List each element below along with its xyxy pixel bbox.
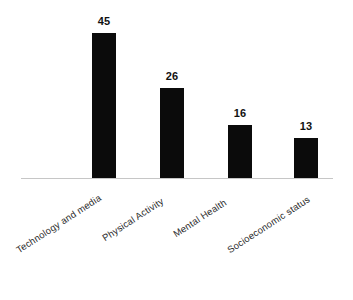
plot-area: 45 26 16 13: [0, 0, 353, 182]
x-tick-label-technology-and-media: Technology and media: [14, 192, 103, 255]
x-tick-label-socioeconomic-status: Socioeconomic status: [225, 193, 312, 255]
bar-value-socioeconomic-status: 13: [294, 120, 318, 132]
bar-technology-and-media: [92, 33, 116, 178]
x-axis-line: [21, 178, 333, 179]
bar-value-mental-health: 16: [228, 107, 252, 119]
bar-mental-health: [228, 125, 252, 178]
bar-value-technology-and-media: 45: [92, 15, 116, 27]
bar-socioeconomic-status: [294, 138, 318, 178]
bar-physical-activity: [160, 88, 184, 178]
x-tick-label-mental-health: Mental Health: [171, 197, 228, 240]
x-tick-label-physical-activity: Physical Activity: [100, 195, 166, 243]
x-axis-tick-labels: Technology and media Physical Activity M…: [0, 182, 353, 300]
bar-chart-figure: 45 26 16 13 Technology and media Physica…: [0, 0, 353, 300]
bar-value-physical-activity: 26: [160, 70, 184, 82]
